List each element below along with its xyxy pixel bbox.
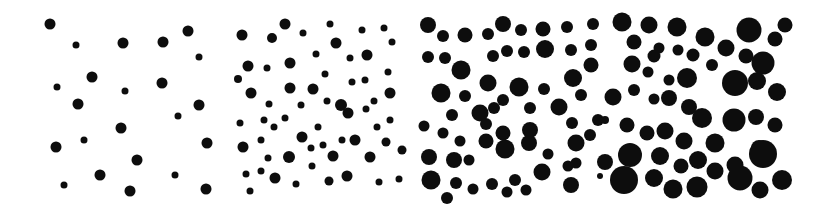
dot bbox=[707, 163, 724, 180]
dot bbox=[728, 166, 753, 191]
dot bbox=[597, 154, 613, 170]
dot bbox=[95, 170, 106, 181]
dot bbox=[246, 88, 257, 99]
dot bbox=[175, 113, 182, 120]
dot bbox=[45, 19, 56, 30]
dot bbox=[238, 142, 249, 153]
dot bbox=[365, 152, 376, 163]
panel-medium-dots bbox=[419, 16, 614, 204]
dot bbox=[495, 16, 511, 32]
dot bbox=[132, 155, 143, 166]
dot bbox=[610, 166, 638, 194]
dot bbox=[749, 140, 777, 168]
dot bbox=[270, 173, 281, 184]
panel-dense-small-dots bbox=[234, 19, 407, 195]
dot bbox=[479, 134, 494, 149]
dot bbox=[778, 18, 793, 33]
dot bbox=[371, 98, 378, 105]
dot bbox=[648, 50, 661, 63]
dot bbox=[458, 28, 473, 43]
dot bbox=[285, 58, 296, 69]
dot bbox=[172, 172, 179, 179]
dot bbox=[359, 27, 366, 34]
dot bbox=[385, 69, 392, 76]
dot bbox=[551, 99, 568, 116]
dot bbox=[459, 90, 471, 102]
dot bbox=[362, 77, 369, 84]
dot bbox=[446, 152, 462, 168]
dot bbox=[468, 184, 479, 195]
dot bbox=[293, 181, 300, 188]
dot bbox=[521, 185, 532, 196]
dot bbox=[385, 88, 396, 99]
dot bbox=[265, 155, 272, 162]
dot bbox=[382, 138, 391, 147]
dot bbox=[322, 71, 329, 78]
dot bbox=[723, 109, 746, 132]
dot bbox=[315, 124, 322, 131]
dot bbox=[486, 178, 498, 190]
dot bbox=[264, 65, 271, 72]
dot bbox=[432, 84, 451, 103]
dot bbox=[61, 182, 68, 189]
dot bbox=[363, 106, 370, 113]
dot bbox=[480, 75, 497, 92]
dot bbox=[509, 174, 521, 186]
dot bbox=[309, 163, 316, 170]
dot bbox=[234, 75, 242, 83]
dot bbox=[536, 22, 551, 37]
dot bbox=[243, 171, 250, 178]
panel-sparse-small-dots bbox=[45, 19, 213, 197]
dot bbox=[689, 151, 707, 169]
dot bbox=[194, 100, 205, 111]
dot bbox=[327, 21, 334, 28]
dot bbox=[661, 90, 677, 106]
dot bbox=[73, 42, 80, 49]
dot bbox=[450, 177, 462, 189]
dot bbox=[618, 143, 642, 167]
dot bbox=[748, 72, 766, 90]
dot bbox=[125, 186, 136, 197]
dot bbox=[347, 55, 354, 62]
dot bbox=[324, 98, 331, 105]
dot bbox=[524, 102, 536, 114]
dot bbox=[396, 176, 403, 183]
dot bbox=[480, 118, 492, 130]
dot bbox=[624, 56, 641, 73]
dot bbox=[437, 30, 449, 42]
dot bbox=[398, 146, 407, 155]
dot bbox=[534, 164, 551, 181]
dot bbox=[362, 50, 373, 61]
dot bbox=[261, 117, 268, 124]
dot bbox=[267, 33, 277, 43]
dot bbox=[283, 151, 295, 163]
dot bbox=[118, 38, 129, 49]
dot bbox=[739, 49, 754, 64]
dot bbox=[482, 28, 494, 40]
dot bbox=[158, 37, 169, 48]
dot bbox=[563, 177, 579, 193]
dot bbox=[496, 126, 511, 141]
dot bbox=[628, 84, 640, 96]
dot bbox=[521, 135, 537, 151]
dot bbox=[613, 13, 632, 32]
dot bbox=[543, 149, 554, 160]
dot bbox=[515, 24, 527, 36]
dot bbox=[488, 102, 500, 114]
dot bbox=[343, 108, 354, 119]
dot bbox=[502, 187, 513, 198]
dot bbox=[452, 61, 471, 80]
dot bbox=[313, 51, 320, 58]
dot bbox=[643, 67, 654, 78]
dot bbox=[183, 26, 194, 37]
dot bbox=[438, 128, 449, 139]
dot bbox=[349, 79, 356, 86]
dot bbox=[350, 135, 361, 146]
dot bbox=[271, 124, 278, 131]
dot bbox=[328, 151, 339, 162]
dot bbox=[298, 102, 305, 109]
dot bbox=[387, 117, 394, 124]
dot bbox=[584, 58, 599, 73]
dot bbox=[237, 120, 244, 127]
dot bbox=[687, 49, 700, 62]
